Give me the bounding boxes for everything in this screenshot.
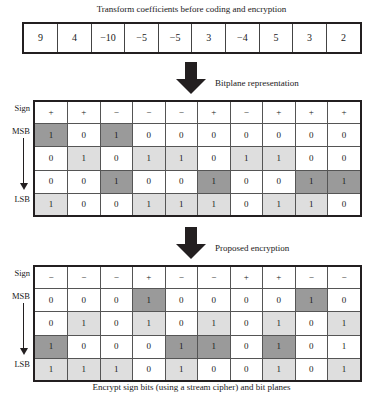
encrypted-bit-cell: 1 — [165, 335, 198, 358]
bitplane-bit-row: 1010000000 — [35, 124, 360, 147]
encrypted-sign-cell: + — [133, 267, 166, 289]
bitplane-sign-cell: + — [328, 102, 361, 124]
bitplane-sign-cell: − — [230, 102, 263, 124]
encrypted-bit-cell: 1 — [133, 312, 166, 335]
encrypted-bit-cell: 1 — [328, 312, 361, 335]
encrypted-bit-cell: 0 — [230, 312, 263, 335]
encrypted-bit-cell: 0 — [133, 358, 166, 380]
encrypted-sign-cell: − — [68, 267, 101, 289]
bitplane-bit-cell: 0 — [100, 147, 133, 170]
encrypted-bit-cell: 1 — [263, 358, 296, 380]
encrypted-bit-cell: 0 — [198, 289, 231, 312]
encrypted-msb-to-lsb-arrow — [18, 303, 30, 355]
bitplane-bit-cell: 1 — [35, 124, 68, 147]
encrypted-bit-cell: 1 — [68, 358, 101, 380]
encrypted-bit-cell: 1 — [35, 335, 68, 358]
encrypted-bit-cell: 1 — [35, 358, 68, 380]
encrypted-bit-cell: 1 — [328, 335, 361, 358]
bitplane-sign-cell: + — [295, 102, 328, 124]
arrow-tip — [20, 348, 28, 355]
bitplane-bit-cell: 0 — [68, 193, 101, 215]
bitplane-msb-label: MSB — [0, 126, 30, 136]
bitplane-bit-cell: 0 — [328, 147, 361, 170]
bitplane-sign-cell: + — [35, 102, 68, 124]
bitplane-bit-row: 0010010011 — [35, 170, 360, 193]
bitplane-bit-cell: 0 — [263, 124, 296, 147]
bitplane-bit-cell: 1 — [133, 193, 166, 215]
bitplane-bit-cell: 0 — [230, 124, 263, 147]
encrypted-sign-label: Sign — [0, 268, 30, 278]
coefficient-cell: −10 — [91, 24, 125, 52]
arrow-line — [23, 138, 24, 183]
encryption-stage-label: Proposed encryption — [215, 243, 289, 254]
coefficient-cell: 5 — [259, 24, 293, 52]
encrypted-sign-cell: − — [198, 267, 231, 289]
bitplane-lsb-label: LSB — [0, 194, 30, 204]
coefficient-cell: −4 — [226, 24, 260, 52]
coefficient-cell: 9 — [24, 24, 58, 52]
bitplane-msb-to-lsb-arrow — [18, 138, 30, 190]
encrypted-bit-cell: 0 — [230, 289, 263, 312]
bitplane-bit-cell: 0 — [295, 124, 328, 147]
bitplane-bit-cell: 0 — [230, 170, 263, 193]
bitplane-bit-cell: 0 — [198, 124, 231, 147]
bitplane-bit-cell: 1 — [263, 193, 296, 215]
bitplane-bit-cell: 0 — [68, 124, 101, 147]
bitplane-bit-cell: 0 — [328, 193, 361, 215]
coefficients-row-body: 94−10−5−53−4532 — [24, 24, 360, 52]
bitplane-bit-cell: 1 — [100, 124, 133, 147]
encrypted-sign-cell: + — [230, 267, 263, 289]
encrypted-bit-cell: 0 — [263, 289, 296, 312]
bitplane-table: ++−−−+−+++101000000001011011000010010011… — [33, 100, 362, 217]
encrypted-bit-row: 0101010101 — [35, 312, 360, 335]
bitplane-bit-cell: 1 — [328, 170, 361, 193]
encrypted-sign-cell: − — [165, 267, 198, 289]
encrypted-bit-cell: 1 — [100, 358, 133, 380]
bitplane-bit-cell: 1 — [165, 147, 198, 170]
arrow-shaft — [185, 227, 197, 245]
encrypted-sign-cell: − — [328, 267, 361, 289]
encrypted-sign-cell: − — [100, 267, 133, 289]
encrypted-bit-cell: 1 — [68, 312, 101, 335]
coefficient-cell: 4 — [58, 24, 92, 52]
bitplane-sign-label: Sign — [0, 103, 30, 113]
encrypted-bit-cell: 0 — [100, 335, 133, 358]
encrypted-bit-cell: 0 — [295, 358, 328, 380]
encrypted-bit-cell: 1 — [263, 335, 296, 358]
coefficients-table: 94−10−5−53−4532 — [22, 22, 362, 54]
encrypted-bit-cell: 0 — [230, 335, 263, 358]
bitplane-table-body: ++−−−+−+++101000000001011011000010010011… — [35, 102, 360, 215]
bitplane-bit-cell: 0 — [165, 124, 198, 147]
encrypted-bit-cell: 1 — [165, 358, 198, 380]
encrypted-bit-cell: 0 — [198, 358, 231, 380]
encrypted-bit-row: 1000110101 — [35, 335, 360, 358]
encrypted-bit-cell: 0 — [35, 312, 68, 335]
arrow-shaft — [185, 62, 197, 80]
encrypted-bit-row: 1110100101 — [35, 358, 360, 380]
bitplane-bit-cell: 0 — [165, 170, 198, 193]
bitplane-bit-cell: 0 — [35, 147, 68, 170]
bitplane-bit-cell: 0 — [133, 124, 166, 147]
encrypted-bit-cell: 1 — [198, 312, 231, 335]
coefficients-row: 94−10−5−53−4532 — [24, 24, 360, 52]
bitplane-bit-cell: 1 — [295, 193, 328, 215]
encrypted-bit-cell: 0 — [68, 335, 101, 358]
bitplane-bit-cell: 0 — [35, 170, 68, 193]
encrypted-sign-cell: − — [35, 267, 68, 289]
arrow-head — [176, 79, 206, 94]
bitplane-sign-cell: + — [263, 102, 296, 124]
encrypted-sign-cell: + — [263, 267, 296, 289]
arrow-tip — [20, 183, 28, 190]
encrypted-bit-cell: 0 — [133, 335, 166, 358]
arrow-line — [23, 303, 24, 348]
encrypted-sign-cell: − — [295, 267, 328, 289]
bitplane-bit-row: 0101101100 — [35, 147, 360, 170]
encrypted-bit-cell: 1 — [328, 358, 361, 380]
bitplane-bit-cell: 0 — [328, 124, 361, 147]
bitplane-bit-cell: 1 — [100, 170, 133, 193]
bitplane-bit-cell: 1 — [198, 170, 231, 193]
encrypted-bit-cell: 0 — [165, 312, 198, 335]
bitplane-bit-cell: 0 — [295, 147, 328, 170]
bitplane-bit-cell: 0 — [68, 170, 101, 193]
encrypted-bit-cell: 0 — [165, 289, 198, 312]
